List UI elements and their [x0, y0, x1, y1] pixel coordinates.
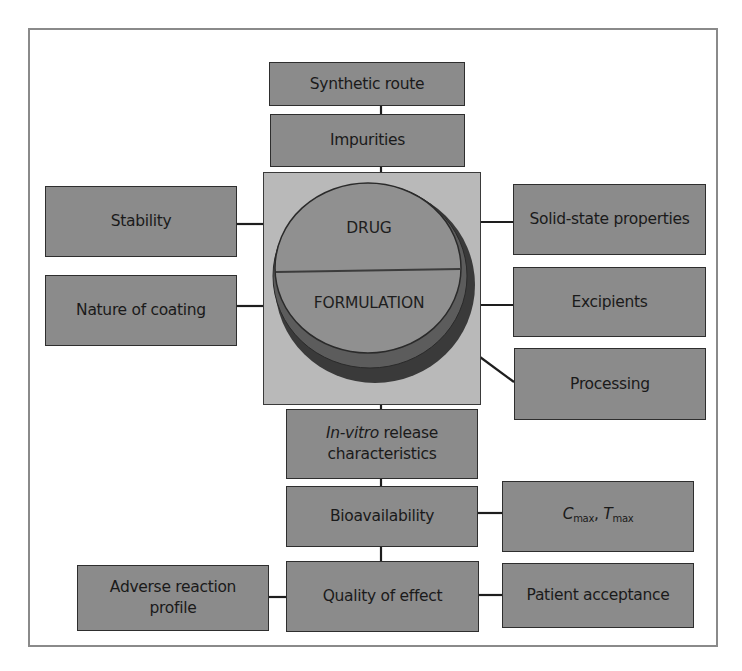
- box-processing: Processing: [514, 348, 706, 420]
- label-in-vitro-line2: characteristics: [327, 444, 436, 465]
- label-nature-of-coating: Nature of coating: [76, 300, 206, 321]
- label-cmax-tmax: Cmax, Tmax: [563, 504, 634, 529]
- box-synthetic-route: Synthetic route: [269, 62, 465, 106]
- pill-label-drug: DRUG: [264, 219, 474, 237]
- label-solid-state-properties: Solid-state properties: [529, 209, 689, 230]
- box-impurities: Impurities: [270, 114, 465, 167]
- label-in-vitro-rest: release: [379, 424, 438, 442]
- label-patient-acceptance: Patient acceptance: [527, 585, 670, 606]
- box-solid-state-properties: Solid-state properties: [513, 184, 706, 255]
- label-processing: Processing: [570, 374, 650, 395]
- label-stability: Stability: [111, 211, 172, 232]
- pill-label-formulation: FORMULATION: [264, 294, 474, 312]
- box-adverse-reaction-profile: Adverse reaction profile: [77, 565, 269, 631]
- box-stability: Stability: [45, 186, 237, 257]
- box-nature-of-coating: Nature of coating: [45, 275, 237, 346]
- box-quality-of-effect: Quality of effect: [286, 561, 479, 632]
- symbol-c: C: [563, 505, 574, 523]
- label-in-vitro-italic: In-vitro: [326, 424, 379, 442]
- label-adverse-line1: Adverse reaction: [110, 577, 236, 598]
- subscript-t-max: max: [612, 513, 633, 524]
- label-synthetic-route: Synthetic route: [310, 74, 425, 95]
- label-in-vitro-line1: In-vitro release: [326, 423, 438, 444]
- box-cmax-tmax: Cmax, Tmax: [502, 481, 694, 552]
- box-patient-acceptance: Patient acceptance: [502, 563, 694, 628]
- subscript-c-max: max: [573, 513, 594, 524]
- box-excipients: Excipients: [513, 267, 706, 337]
- separator: ,: [594, 505, 603, 523]
- label-quality-of-effect: Quality of effect: [323, 586, 443, 607]
- label-adverse-line2: profile: [150, 598, 197, 619]
- label-bioavailability: Bioavailability: [330, 506, 434, 527]
- pill-tablet-icon: [263, 172, 481, 405]
- drug-formulation-container: DRUG FORMULATION: [263, 172, 481, 405]
- box-in-vitro-release: In-vitro release characteristics: [286, 409, 478, 479]
- connector-processing: [480, 357, 514, 382]
- label-impurities: Impurities: [330, 130, 405, 151]
- box-bioavailability: Bioavailability: [286, 486, 478, 547]
- label-excipients: Excipients: [571, 292, 647, 313]
